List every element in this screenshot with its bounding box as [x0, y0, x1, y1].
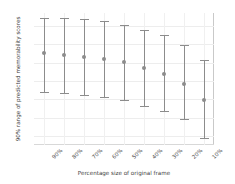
x-tick-label: 40% [152, 148, 164, 160]
x-tick-label: 70% [92, 148, 104, 160]
axis-spine-right [213, 13, 214, 145]
x-tick-label: 50% [132, 148, 144, 160]
errorbar-cap-upper [180, 45, 189, 46]
errorbar-cap-lower [160, 111, 169, 112]
data-point-marker [122, 60, 126, 64]
errorbar-cap-lower [180, 119, 189, 120]
data-point-marker [162, 72, 166, 76]
errorbar-cap-lower [120, 100, 129, 101]
data-point-marker [82, 55, 86, 59]
errorbar [80, 19, 89, 96]
data-point-marker [42, 51, 46, 55]
x-tick-label: 60% [112, 148, 124, 160]
errorbar-cap-lower [40, 92, 49, 93]
errorbar [200, 60, 209, 140]
errorbar-line [44, 18, 45, 93]
errorbar [160, 35, 169, 112]
errorbar-cap-lower [80, 95, 89, 96]
data-point-marker [182, 82, 186, 86]
data-point-marker [142, 66, 146, 70]
errorbar [40, 18, 49, 93]
errorbar-cap-upper [60, 18, 69, 19]
errorbar-cap-lower [100, 97, 109, 98]
data-point-marker [202, 98, 206, 102]
errorbar-cap-upper [100, 21, 109, 22]
errorbar [140, 30, 149, 107]
errorbar-cap-lower [60, 93, 69, 94]
errorbar [60, 18, 69, 94]
errorbar-cap-upper [40, 18, 49, 19]
errorbar-cap-upper [200, 60, 209, 61]
data-point-marker [62, 53, 66, 57]
x-tick-label: 10% [212, 148, 224, 160]
errorbar-cap-lower [200, 138, 209, 139]
errorbar-cap-upper [160, 35, 169, 36]
x-tick-label: 90% [52, 148, 64, 160]
chart-figure: 0.850.800.750.700.650.600.55 90%80%70%60… [0, 0, 235, 184]
errorbar-cap-lower [140, 106, 149, 107]
errorbar-cap-upper [140, 30, 149, 31]
plot-area [34, 13, 214, 145]
errorbar-cap-upper [120, 25, 129, 26]
data-point-marker [102, 57, 106, 61]
y-axis-title: 90% range of predicted memorability scor… [13, 13, 23, 145]
x-tick-label: 30% [172, 148, 184, 160]
errorbar [100, 21, 109, 98]
x-axis-title: Percentage size of original frame [34, 170, 214, 176]
x-tick-label: 80% [72, 148, 84, 160]
errorbar [180, 45, 189, 120]
errorbar-cap-upper [80, 19, 89, 20]
x-tick-label: 20% [192, 148, 204, 160]
errorbar [120, 25, 129, 101]
